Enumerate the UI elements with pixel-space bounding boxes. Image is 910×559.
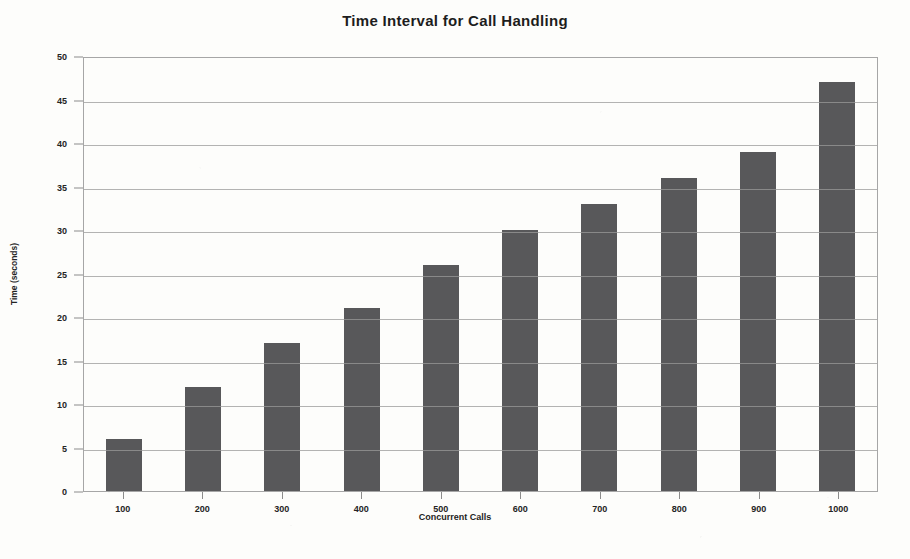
y-axis-title: Time (seconds) bbox=[9, 243, 19, 305]
bar-slot bbox=[560, 58, 639, 491]
x-tick-cell: 500 bbox=[401, 492, 481, 514]
y-tick-mark bbox=[74, 361, 83, 362]
bar-700 bbox=[581, 204, 617, 491]
gridline bbox=[84, 406, 877, 407]
x-tick-cell: 600 bbox=[481, 492, 561, 514]
y-tick-mark bbox=[74, 318, 83, 319]
x-tick-mark bbox=[123, 492, 124, 499]
x-tick-mark bbox=[441, 492, 442, 499]
bar-slot bbox=[401, 58, 480, 491]
y-tick-label: 25 bbox=[57, 270, 67, 280]
bar-slot bbox=[84, 58, 163, 491]
y-tick-mark bbox=[74, 187, 83, 188]
gridline bbox=[84, 189, 877, 190]
bar-200 bbox=[185, 387, 221, 491]
x-tick-cell: 200 bbox=[163, 492, 243, 514]
gridline bbox=[84, 102, 877, 103]
bar-900 bbox=[740, 152, 776, 491]
bar-slot bbox=[718, 58, 797, 491]
y-tick-label: 40 bbox=[57, 139, 67, 149]
x-tick-mark bbox=[679, 492, 680, 499]
bar-500 bbox=[423, 265, 459, 491]
y-tick-label: 20 bbox=[57, 313, 67, 323]
y-tick-label: 5 bbox=[62, 444, 67, 454]
x-tick-mark bbox=[202, 492, 203, 499]
gridline bbox=[84, 145, 877, 146]
bar-600 bbox=[502, 230, 538, 491]
bar-slot bbox=[163, 58, 242, 491]
x-tick-mark bbox=[520, 492, 521, 499]
y-tick-label: 50 bbox=[57, 52, 67, 62]
y-tick-mark bbox=[74, 274, 83, 275]
y-axis: Time (seconds) 50454035302520151050 bbox=[0, 0, 83, 559]
bar-100 bbox=[106, 439, 142, 491]
x-tick-mark bbox=[838, 492, 839, 499]
bar-400 bbox=[344, 308, 380, 491]
x-tick-cell: 1000 bbox=[799, 492, 879, 514]
bar-slot bbox=[243, 58, 322, 491]
x-axis-title: Concurrent Calls bbox=[0, 512, 910, 522]
x-tick-cell: 100 bbox=[83, 492, 163, 514]
bar-slot bbox=[322, 58, 401, 491]
y-tick-label: 15 bbox=[57, 357, 67, 367]
y-tick-label: 30 bbox=[57, 226, 67, 236]
y-tick-label: 35 bbox=[57, 183, 67, 193]
bar-800 bbox=[661, 178, 697, 491]
y-tick-mark bbox=[74, 231, 83, 232]
x-tick-row: 1002003004005006007008009001000 bbox=[83, 492, 878, 514]
bar-300 bbox=[264, 343, 300, 491]
y-tick-label: 45 bbox=[57, 96, 67, 106]
plot-area bbox=[83, 57, 878, 492]
y-tick-mark bbox=[74, 448, 83, 449]
x-tick-mark bbox=[600, 492, 601, 499]
gridline bbox=[84, 363, 877, 364]
gridline bbox=[84, 276, 877, 277]
x-tick-cell: 800 bbox=[640, 492, 720, 514]
gridline bbox=[84, 232, 877, 233]
x-tick-mark bbox=[361, 492, 362, 499]
y-tick-mark bbox=[74, 144, 83, 145]
y-tick-label: 0 bbox=[62, 487, 67, 497]
bar-chart-figure: Time Interval for Call Handling Time (se… bbox=[0, 0, 910, 559]
x-tick-cell: 300 bbox=[242, 492, 322, 514]
x-tick-mark bbox=[282, 492, 283, 499]
y-tick-mark bbox=[74, 492, 83, 493]
x-tick-cell: 900 bbox=[719, 492, 799, 514]
bar-slot bbox=[480, 58, 559, 491]
gridline bbox=[84, 319, 877, 320]
x-tick-cell: 700 bbox=[560, 492, 640, 514]
bars-layer bbox=[84, 58, 877, 491]
y-tick-mark bbox=[74, 100, 83, 101]
chart-title: Time Interval for Call Handling bbox=[0, 12, 910, 29]
x-tick-mark bbox=[759, 492, 760, 499]
y-tick-mark bbox=[74, 57, 83, 58]
y-tick-mark bbox=[74, 405, 83, 406]
x-tick-cell: 400 bbox=[322, 492, 402, 514]
bar-slot bbox=[639, 58, 718, 491]
y-tick-label: 10 bbox=[57, 400, 67, 410]
gridline bbox=[84, 450, 877, 451]
bar-1000 bbox=[819, 82, 855, 491]
bar-slot bbox=[798, 58, 877, 491]
